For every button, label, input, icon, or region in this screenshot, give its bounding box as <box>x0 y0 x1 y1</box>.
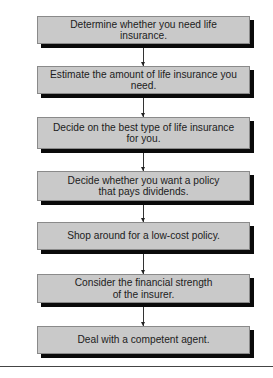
step-6-label: Consider the financial strength of the i… <box>75 277 213 300</box>
step-3-label: Decide on the best type of life insuranc… <box>53 122 234 145</box>
step-5-label: Shop around for a low-cost policy. <box>67 230 220 242</box>
step-7-box: Deal with a competent agent. <box>37 326 250 354</box>
step-1-label: Determine whether you need life insuranc… <box>46 19 241 42</box>
arrow-down-icon <box>143 153 144 171</box>
step-2-label: Estimate the amount of life insurance yo… <box>46 69 241 92</box>
step-2-box: Estimate the amount of life insurance yo… <box>37 66 250 94</box>
step-4-label: Decide whether you want a policy that pa… <box>68 175 220 198</box>
arrow-down-icon <box>143 307 144 326</box>
arrow-down-icon <box>143 48 144 66</box>
step-5-box: Shop around for a low-cost policy. <box>37 222 250 250</box>
step-1-box: Determine whether you need life insuranc… <box>37 16 250 44</box>
arrow-down-icon <box>143 98 144 117</box>
step-4-box: Decide whether you want a policy that pa… <box>37 171 250 201</box>
arrow-down-icon <box>143 205 144 222</box>
step-7-label: Deal with a competent agent. <box>78 334 210 346</box>
arrow-down-icon <box>143 254 144 274</box>
step-6-box: Consider the financial strength of the i… <box>37 274 250 303</box>
step-3-box: Decide on the best type of life insuranc… <box>37 117 250 149</box>
bottom-divider <box>0 366 273 367</box>
